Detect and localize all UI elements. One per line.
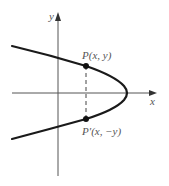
point-p-label: P(x, y) [81, 49, 112, 62]
y-axis-label: y [48, 10, 54, 22]
x-axis-label: x [149, 95, 155, 107]
point-p-prime-label: P′(x, −y) [81, 125, 121, 138]
point-p [83, 63, 89, 69]
point-p-prime [83, 116, 89, 122]
y-axis-arrow-icon [55, 12, 61, 21]
parabola-symmetry-diagram: y x P(x, y) P′(x, −y) [0, 0, 169, 186]
